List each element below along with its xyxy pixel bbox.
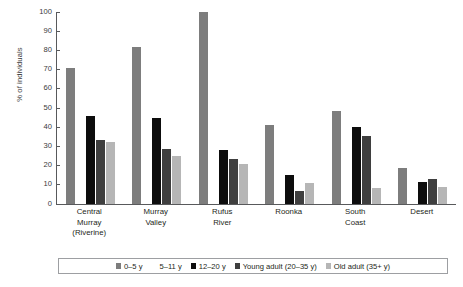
x-axis-category-label-line: Coast xyxy=(322,218,389,229)
plot-area: 1009080706050403020100 xyxy=(56,12,456,205)
y-axis-tick-label: 60 xyxy=(44,83,52,93)
bar xyxy=(265,125,274,204)
bar-group xyxy=(57,12,124,204)
bar xyxy=(229,159,238,204)
bar xyxy=(106,142,115,204)
legend-label: 5–11 y xyxy=(159,262,181,271)
bar xyxy=(66,68,75,204)
bar-group xyxy=(390,12,457,204)
legend-item[interactable]: 0–5 y xyxy=(116,262,143,271)
bar-chart: % of individuals 1009080706050403020100 … xyxy=(0,0,463,287)
x-axis-category-label-line: Rufus xyxy=(189,207,256,218)
chart-legend: 0–5 y5–11 y12–20 yYoung adult (20–35 y)O… xyxy=(58,258,448,274)
x-axis-category-label-line: Murray xyxy=(123,207,190,218)
y-axis-tick-label: 20 xyxy=(44,160,52,170)
x-axis-category-label-line: Desert xyxy=(389,207,456,218)
bar xyxy=(162,149,171,204)
x-axis-category-labels: CentralMurray(Riverine)MurrayValleyRufus… xyxy=(56,207,455,239)
bar-groups xyxy=(57,12,456,204)
legend-swatch-icon xyxy=(151,263,157,269)
x-axis-category-label-line: (Riverine) xyxy=(56,228,123,239)
y-axis-tick-label: 100 xyxy=(39,7,52,17)
legend-item[interactable]: 5–11 y xyxy=(151,262,181,271)
legend-swatch-icon xyxy=(191,263,197,269)
bar xyxy=(428,179,437,204)
bar xyxy=(372,188,381,204)
legend-swatch-icon xyxy=(326,263,332,269)
bar xyxy=(152,118,161,204)
legend-item[interactable]: 12–20 y xyxy=(191,262,226,271)
legend-item[interactable]: Young adult (20–35 y) xyxy=(235,262,317,271)
legend-label: 12–20 y xyxy=(199,262,226,271)
y-axis-tick-label: 0 xyxy=(48,199,52,209)
y-axis-tick-label: 70 xyxy=(44,64,52,74)
legend-label: Young adult (20–35 y) xyxy=(243,262,317,271)
bar xyxy=(86,116,95,204)
legend-label: Old adult (35+ y) xyxy=(334,262,390,271)
x-axis-category-label-line: Murray xyxy=(56,218,123,229)
bar xyxy=(172,156,181,204)
bar xyxy=(398,168,407,204)
legend-swatch-icon xyxy=(235,263,241,269)
bar xyxy=(362,136,371,204)
bar xyxy=(199,12,208,204)
x-axis-category-label-line: Valley xyxy=(123,218,190,229)
x-axis-category-label-line: Central xyxy=(56,207,123,218)
bar xyxy=(239,164,248,204)
bar xyxy=(332,111,341,204)
legend-swatch-icon xyxy=(116,263,122,269)
x-axis-category-label-line: South xyxy=(322,207,389,218)
y-axis-tick-label: 80 xyxy=(44,45,52,55)
bar xyxy=(219,150,228,204)
y-axis-title: % of individuals xyxy=(15,20,24,130)
bar xyxy=(418,182,427,204)
x-axis-category-label: Desert xyxy=(389,207,456,239)
x-axis-category-label: Roonka xyxy=(256,207,323,239)
y-axis-tick-label: 10 xyxy=(44,179,52,189)
bar xyxy=(352,127,361,204)
x-axis-category-label-line: River xyxy=(189,218,256,229)
legend-label: 0–5 y xyxy=(124,262,143,271)
x-axis-category-label: SouthCoast xyxy=(322,207,389,239)
bar xyxy=(438,187,447,204)
bar xyxy=(295,191,304,204)
bar-group xyxy=(257,12,324,204)
y-axis-tick-label: 30 xyxy=(44,141,52,151)
bar xyxy=(285,175,294,204)
x-axis-category-label-line: Roonka xyxy=(256,207,323,218)
bar-group xyxy=(124,12,191,204)
x-axis-category-label: RufusRiver xyxy=(189,207,256,239)
bar xyxy=(96,140,105,204)
x-axis-category-label: CentralMurray(Riverine) xyxy=(56,207,123,239)
bar xyxy=(305,183,314,204)
y-axis-tick-label: 40 xyxy=(44,122,52,132)
bar-group xyxy=(190,12,257,204)
bar-group xyxy=(323,12,390,204)
bar xyxy=(132,47,141,204)
x-axis-category-label: MurrayValley xyxy=(123,207,190,239)
y-axis-tick-label: 50 xyxy=(44,103,52,113)
legend-item[interactable]: Old adult (35+ y) xyxy=(326,262,390,271)
y-axis-tick-label: 90 xyxy=(44,26,52,36)
